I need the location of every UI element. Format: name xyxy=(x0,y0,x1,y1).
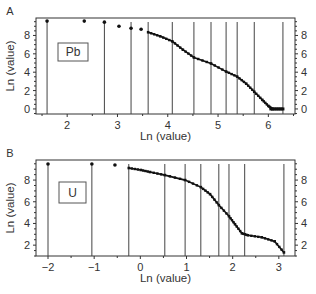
curve-marker xyxy=(213,198,215,200)
y-tick-label-left: 2 xyxy=(24,85,30,97)
y-tick-label-left: 6 xyxy=(24,196,30,208)
curve-marker xyxy=(230,73,232,75)
y-tick-label-right: 2 xyxy=(301,85,307,97)
curve-marker xyxy=(201,59,203,61)
y-tick-label-left: 8 xyxy=(24,174,30,186)
element-label: U xyxy=(68,186,77,200)
y-tick-label-right: 8 xyxy=(301,29,307,41)
curve-point xyxy=(260,236,263,239)
curve-marker xyxy=(270,239,272,241)
curve-marker xyxy=(174,176,176,178)
curve-marker xyxy=(238,77,240,79)
curve-point xyxy=(193,56,196,59)
curve-marker xyxy=(202,188,204,190)
curve-marker xyxy=(150,32,152,34)
curve-point xyxy=(184,179,187,182)
x-axis-label: Ln (value) xyxy=(140,272,191,284)
curve-point xyxy=(171,40,174,43)
curve-marker xyxy=(153,33,155,35)
data-curve xyxy=(129,168,284,252)
curve-marker xyxy=(188,181,190,183)
figure: A234560246802468Ln (value)Ln (value)PbB−… xyxy=(0,0,316,294)
curve-marker xyxy=(156,34,158,36)
curve-point xyxy=(149,171,152,174)
zero-value-point xyxy=(281,107,284,110)
curve-marker xyxy=(206,61,208,63)
curve-marker xyxy=(232,221,234,223)
curve-marker xyxy=(137,168,139,170)
curve-point xyxy=(140,169,143,172)
curve-marker xyxy=(147,170,149,172)
curve-marker xyxy=(280,248,282,250)
data-point xyxy=(113,163,117,167)
curve-marker xyxy=(134,168,136,170)
x-tick-label: 6 xyxy=(265,119,271,131)
curve-marker xyxy=(225,212,227,214)
y-tick-label-right: 0 xyxy=(301,103,307,115)
y-axis-label: Ln (value) xyxy=(4,40,16,91)
plot-frame xyxy=(36,18,295,114)
curve-marker xyxy=(190,54,192,56)
curve-marker xyxy=(142,169,144,171)
curve-marker xyxy=(259,97,261,99)
curve-marker xyxy=(131,167,133,169)
y-tick-label-left: 0 xyxy=(24,103,30,115)
curve-marker xyxy=(156,172,158,174)
curve-marker xyxy=(144,170,146,172)
curve-marker xyxy=(153,172,155,174)
curve-marker xyxy=(197,58,199,60)
data-point xyxy=(82,19,86,23)
x-tick-label: 3 xyxy=(114,119,120,131)
curve-marker xyxy=(257,236,259,238)
y-tick-label-left: 4 xyxy=(24,66,30,78)
curve-marker xyxy=(179,46,181,48)
curve-point xyxy=(182,48,185,51)
x-tick-label: 2 xyxy=(64,119,70,131)
y-tick-label-left: 8 xyxy=(24,29,30,41)
x-tick-label: 3 xyxy=(276,261,282,273)
y-axis-label: Ln (value) xyxy=(4,182,16,233)
curve-point xyxy=(200,186,203,189)
curve-marker xyxy=(204,189,206,191)
curve-marker xyxy=(169,175,171,177)
curve-marker xyxy=(187,52,189,54)
y-tick-label-right: 8 xyxy=(301,174,307,186)
curve-marker xyxy=(165,38,167,40)
curve-marker xyxy=(211,196,213,198)
curve-point xyxy=(127,167,130,170)
panel-a: A234560246802468Ln (value)Ln (value)Pb xyxy=(4,5,307,142)
data-point xyxy=(45,19,49,23)
curve-marker xyxy=(215,201,217,203)
x-tick-label: 2 xyxy=(230,261,236,273)
curve-marker xyxy=(214,64,216,66)
curve-point xyxy=(225,70,228,73)
curve-marker xyxy=(160,173,162,175)
curve-marker xyxy=(220,207,222,209)
curve-marker xyxy=(179,178,181,180)
y-tick-label-left: 2 xyxy=(24,239,30,251)
panel-label: A xyxy=(6,5,14,17)
data-point xyxy=(139,27,143,31)
data-point xyxy=(129,26,133,30)
curve-point xyxy=(159,35,162,38)
curve-marker xyxy=(228,72,230,74)
element-label: Pb xyxy=(66,45,81,59)
curve-point xyxy=(209,193,212,196)
y-tick-label-right: 6 xyxy=(301,196,307,208)
curve-point xyxy=(273,240,276,243)
curve-marker xyxy=(239,230,241,232)
curve-point xyxy=(218,204,221,207)
y-tick-label-left: 6 xyxy=(24,48,30,60)
y-tick-label-right: 4 xyxy=(301,66,307,78)
curve-point xyxy=(283,251,286,254)
curve-marker xyxy=(278,246,280,248)
curve-marker xyxy=(196,184,198,186)
x-tick-label: −2 xyxy=(42,261,55,273)
curve-marker xyxy=(243,81,245,83)
curve-marker xyxy=(174,42,176,44)
data-point xyxy=(117,24,121,28)
curve-marker xyxy=(266,103,268,105)
curve-marker xyxy=(236,225,238,227)
curve-point xyxy=(210,62,213,65)
data-point xyxy=(103,20,107,24)
